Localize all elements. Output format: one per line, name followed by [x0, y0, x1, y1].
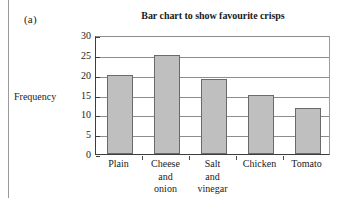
plot-area	[95, 36, 330, 155]
x-axis-category-label: Saltandvinegar	[189, 158, 236, 196]
y-axis-tick-mark	[96, 77, 100, 78]
bar	[295, 108, 321, 154]
x-axis-category-label: Plain	[95, 158, 142, 171]
y-axis-tick-mark	[96, 156, 100, 157]
y-axis-tick-label: 0	[65, 150, 91, 160]
y-axis-tick-mark	[96, 116, 100, 117]
y-axis-tick-label: 5	[65, 130, 91, 140]
x-axis-category-label-line: Salt	[189, 158, 236, 171]
bar	[201, 79, 227, 154]
panel-label: (a)	[24, 13, 37, 25]
y-axis-tick-labels: 302520151050	[61, 0, 91, 198]
y-axis-tick-label: 10	[65, 110, 91, 120]
page-edge-rule	[8, 0, 9, 198]
x-axis-category-label: Chicken	[236, 158, 283, 171]
chart-title: Bar chart to show favourite crisps	[95, 10, 331, 22]
y-axis-tick-mark	[96, 97, 100, 98]
x-axis-category-label-line: Chicken	[236, 158, 283, 171]
x-axis-category-label-line: onion	[142, 183, 189, 196]
x-axis-category-label-line: Tomato	[283, 158, 330, 171]
bar	[107, 75, 133, 154]
x-axis-category-label-line: Plain	[95, 158, 142, 171]
y-axis-tick-label: 20	[65, 71, 91, 81]
y-axis-tick-mark	[96, 57, 100, 58]
x-axis-category-label-line: vinegar	[189, 183, 236, 196]
y-axis-tick-label: 30	[65, 31, 91, 41]
x-axis-category-label-line: Cheese	[142, 158, 189, 171]
bar	[248, 95, 274, 155]
y-axis-tick-label: 15	[65, 91, 91, 101]
bar	[154, 55, 180, 154]
x-axis-category-label: Cheeseandonion	[142, 158, 189, 196]
x-axis-category-label-line: and	[189, 171, 236, 184]
x-axis-category-label-line: and	[142, 171, 189, 184]
y-axis-tick-mark	[96, 136, 100, 137]
gridline	[96, 57, 329, 58]
y-axis-title: Frequency	[14, 91, 56, 102]
y-axis-tick-label: 25	[65, 51, 91, 61]
y-axis-tick-mark	[96, 37, 100, 38]
x-axis-category-label: Tomato	[283, 158, 330, 171]
